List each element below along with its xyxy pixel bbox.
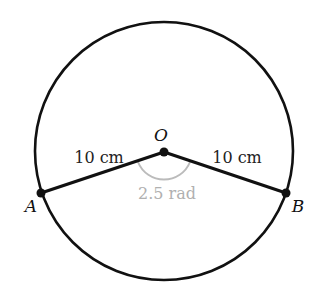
angle-label: 2.5 rad (138, 184, 196, 203)
radius-left-label: 10 cm (74, 148, 124, 167)
angle-arc (138, 162, 190, 180)
radius-right-label: 10 cm (212, 148, 262, 167)
point-a-label: A (23, 196, 37, 216)
center-label: O (154, 125, 168, 145)
center-point (160, 148, 169, 157)
point-b (282, 189, 291, 198)
circle-diagram: O 10 cm 10 cm 2.5 rad A B (0, 0, 318, 289)
point-b-label: B (291, 196, 305, 216)
point-a (37, 189, 46, 198)
